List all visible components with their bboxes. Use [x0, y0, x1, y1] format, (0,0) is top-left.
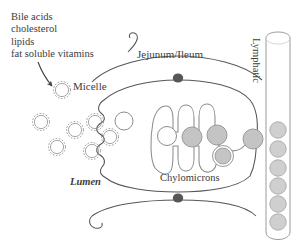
substrate-to-micelle-arrow: [38, 62, 52, 86]
substrate-line-2: cholesterol: [11, 23, 94, 35]
substrate-line-3: lipids: [11, 36, 94, 48]
tight-junction-upper: [173, 73, 183, 82]
substrate-list-label: Bile acids cholesterol lipids fat solubl…: [11, 11, 94, 61]
tight-junction-lower: [173, 193, 183, 202]
chylomicron-group: [115, 112, 263, 167]
lumen-label: Lumen: [70, 176, 101, 188]
substrate-line-4: fat soluble vitamins: [11, 48, 94, 60]
micelle-group: [33, 82, 119, 160]
lipid-absorption-diagram: Bile acids cholesterol lipids fat solubl…: [0, 0, 298, 252]
jejunum-ileum-label: Jejunum/Ileum: [137, 48, 203, 61]
lower-cell-outline: [90, 200, 256, 228]
substrate-line-1: Bile acids: [11, 11, 94, 23]
lymphatic-vessel: [266, 32, 290, 240]
lymphatic-label: Lymphatic: [250, 38, 262, 83]
chylomicrons-label: Chylomicrons: [160, 172, 220, 184]
micelle-label: Micelle: [73, 80, 107, 93]
